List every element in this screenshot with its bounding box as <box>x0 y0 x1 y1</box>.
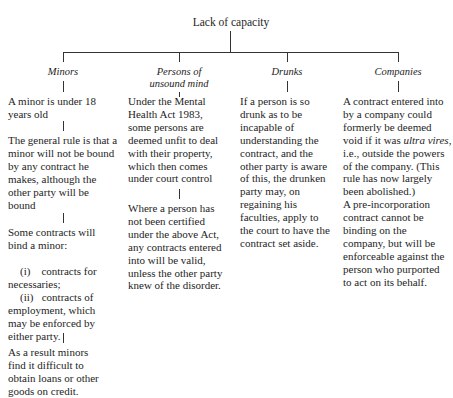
root-node-lack-of-capacity: Lack of capacity <box>186 16 276 29</box>
list-marker-i: (i) <box>8 265 30 277</box>
list-marker-ii: (ii) <box>8 291 33 303</box>
minors-connector <box>63 52 64 62</box>
companies-connector <box>398 52 399 62</box>
root-connector <box>230 31 231 52</box>
branch-title-line1: Persons of <box>157 66 202 77</box>
ultra-vires-term: ultra vires <box>404 134 449 146</box>
minors-paragraph-age: A minor is under 18 years old <box>8 95 123 121</box>
branch-title-minors: Minors <box>23 66 103 78</box>
minors-paragraph-result: As a result minors find it difficult to … <box>8 346 123 398</box>
companies-text-part2: , i.e., outside the powers of the compan… <box>343 134 451 288</box>
minors-connector-2 <box>63 213 64 223</box>
companies-title-connector <box>398 81 399 92</box>
persons-connector-1 <box>179 189 180 199</box>
branch-title-line2: unsound mind <box>149 78 208 89</box>
persons-connector <box>179 52 180 62</box>
minors-connector-3 <box>63 333 64 343</box>
minors-paragraph-general-rule: The general rule is that a minor will no… <box>8 134 133 211</box>
branch-title-persons-of-unsound-mind: Persons of unsound mind <box>134 66 224 90</box>
branch-bar <box>63 52 399 53</box>
drunks-paragraph: If a person is so drunk as to be incapab… <box>240 95 350 250</box>
drunks-connector <box>287 52 288 62</box>
branch-title-drunks: Drunks <box>247 66 327 78</box>
minors-title-connector <box>63 81 64 92</box>
companies-paragraph: A contract entered into by a company cou… <box>343 95 453 289</box>
minors-paragraph-some-contracts: Some contracts will bind a minor: <box>8 226 128 252</box>
drunks-title-connector <box>287 81 288 92</box>
minors-list-item-employment: (ii) contracts of employment, which may … <box>8 278 128 343</box>
persons-paragraph-mental-health-act: Under the Mental Health Act 1983, some p… <box>128 95 243 185</box>
minors-connector-1 <box>63 121 64 131</box>
branch-title-companies: Companies <box>358 66 438 78</box>
persons-paragraph-not-certified: Where a person has not been certified un… <box>128 202 248 292</box>
